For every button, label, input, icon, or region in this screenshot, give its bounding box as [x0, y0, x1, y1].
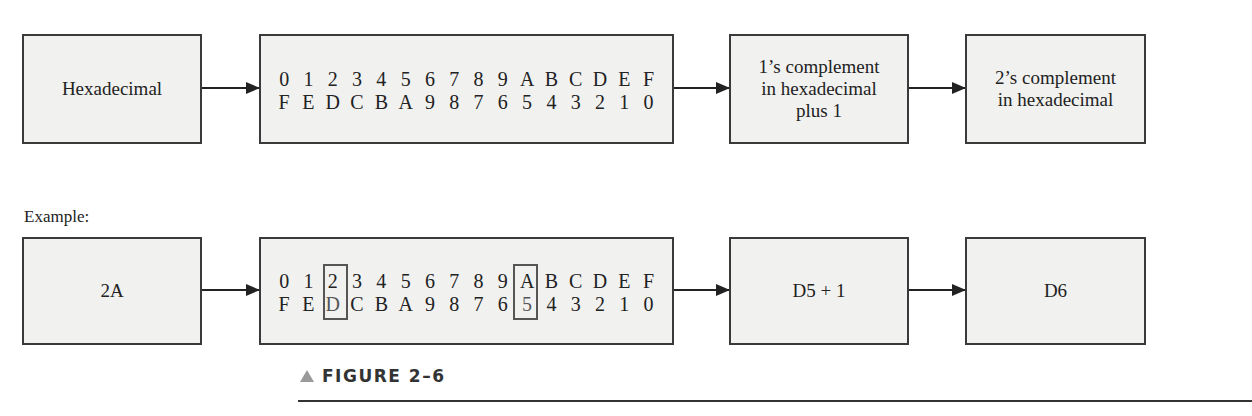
caption-rule [298, 400, 1252, 402]
hex-digit: 8 [442, 91, 466, 113]
hex-digit: C [345, 91, 369, 113]
hex-digit-highlighted: D [321, 293, 345, 315]
hex-digit: F [272, 91, 296, 113]
arrow-4 [202, 289, 259, 291]
hex-digit: 2 [588, 91, 612, 113]
hex-digit: 0 [272, 270, 296, 292]
hex-digit: 2 [588, 293, 612, 315]
hex-digit: 9 [491, 68, 515, 90]
hex-digit: 0 [272, 68, 296, 90]
hex-digit: C [564, 68, 588, 90]
hex-digit: F [636, 270, 660, 292]
hex-digit: 7 [442, 68, 466, 90]
arrow-2 [674, 87, 729, 89]
hex-digit: A [393, 293, 417, 315]
arrow-6 [909, 289, 965, 291]
hex-digit: 5 [515, 91, 539, 113]
hex-digit: D [588, 68, 612, 90]
figure-caption: FIGURE 2–6 [300, 366, 445, 386]
hex-digit: 2 [321, 68, 345, 90]
hex-digit: F [272, 293, 296, 315]
hex-digit: C [564, 270, 588, 292]
hex-digit: F [636, 68, 660, 90]
table-row-top: 0 1 2 3 4 5 6 7 8 9 A B C D E F [272, 68, 661, 90]
arrow-3 [909, 87, 965, 89]
hex-digit: 6 [491, 91, 515, 113]
example-input-box: 2A [22, 237, 202, 345]
hex-digit: D [321, 91, 345, 113]
hex-digit: A [515, 68, 539, 90]
ones-complement-plus-one-box: 1’s complement in hexadecimal plus 1 [729, 34, 909, 144]
example-input-value: 2A [100, 280, 123, 302]
hex-digit: 3 [345, 270, 369, 292]
hex-digit: 1 [612, 293, 636, 315]
hex-digit: C [345, 293, 369, 315]
hex-digit: E [612, 68, 636, 90]
hex-digit: 7 [466, 91, 490, 113]
hex-digit: 9 [418, 91, 442, 113]
hex-digit: 3 [564, 91, 588, 113]
hex-digit: 5 [393, 270, 417, 292]
hex-digit: D [588, 270, 612, 292]
hex-digit: E [612, 270, 636, 292]
hexadecimal-input-box: Hexadecimal [22, 34, 202, 144]
table-row-bottom: F E D C B A 9 8 7 6 5 4 3 2 1 0 [272, 91, 661, 113]
example-step-value: D5 + 1 [793, 280, 846, 302]
hex-digit: E [296, 293, 320, 315]
ones-complement-label: 1’s complement in hexadecimal plus 1 [759, 56, 880, 122]
hex-digit: 4 [369, 270, 393, 292]
hex-digit: B [369, 293, 393, 315]
hex-digit: 6 [418, 68, 442, 90]
arrow-5 [674, 289, 729, 291]
arrow-1 [202, 87, 259, 89]
hex-digit: 4 [539, 91, 563, 113]
hex-digit-highlighted: A [515, 270, 539, 292]
hex-digit: 4 [539, 293, 563, 315]
twos-complement-label: 2’s complement in hexadecimal [995, 67, 1116, 111]
example-table-row-top: 0 1 2 3 4 5 6 7 8 9 A B C D E F [272, 270, 661, 292]
hex-digit: 6 [418, 270, 442, 292]
hex-digit: B [539, 68, 563, 90]
hex-digit: 8 [466, 68, 490, 90]
hex-digit-highlighted: 5 [515, 293, 539, 315]
hex-digit: 7 [442, 270, 466, 292]
example-result-value: D6 [1044, 280, 1067, 302]
hex-digit: 7 [466, 293, 490, 315]
hex-digit: 1 [296, 68, 320, 90]
hex-digit: 3 [564, 293, 588, 315]
hex-digit: 9 [418, 293, 442, 315]
hex-digit: 4 [369, 68, 393, 90]
hex-digit: B [369, 91, 393, 113]
example-label: Example: [24, 207, 89, 227]
hex-digit: 9 [491, 270, 515, 292]
triangle-icon [300, 370, 314, 382]
twos-complement-box: 2’s complement in hexadecimal [965, 34, 1146, 144]
hex-digit: 6 [491, 293, 515, 315]
example-result-box: D6 [965, 237, 1146, 345]
hex-digit-highlighted: 2 [321, 270, 345, 292]
hexadecimal-label: Hexadecimal [62, 78, 162, 100]
hex-digit: 0 [636, 293, 660, 315]
hex-digit: 5 [393, 68, 417, 90]
example-table-row-bottom: F E D C B A 9 8 7 6 5 4 3 2 1 0 [272, 293, 661, 315]
hex-digit: 8 [442, 293, 466, 315]
hex-digit: A [393, 91, 417, 113]
hex-digit: 3 [345, 68, 369, 90]
hex-digit: B [539, 270, 563, 292]
hex-digit: E [296, 91, 320, 113]
hex-digit: 8 [466, 270, 490, 292]
figure-number: FIGURE 2–6 [322, 366, 445, 386]
example-step-box: D5 + 1 [729, 237, 909, 345]
hex-digit: 1 [612, 91, 636, 113]
hex-digit: 0 [636, 91, 660, 113]
hex-digit: 1 [296, 270, 320, 292]
